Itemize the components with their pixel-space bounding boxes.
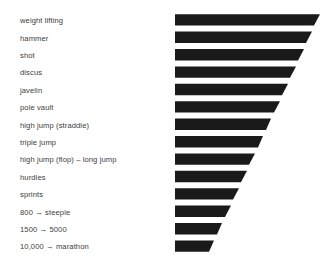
bar [175,240,214,251]
chart-page: weight lifting hammer shot discus javeli… [0,0,333,266]
bar [175,49,304,60]
bar [175,136,263,147]
bar [175,171,247,182]
bar [175,119,271,130]
bar [175,188,239,199]
bar-series [0,0,333,266]
bar [175,32,312,43]
bar [175,66,296,77]
bar [175,101,280,112]
bar [175,14,320,25]
bar [175,206,231,217]
bar [175,153,255,164]
bar [175,84,288,95]
bar [175,223,222,234]
